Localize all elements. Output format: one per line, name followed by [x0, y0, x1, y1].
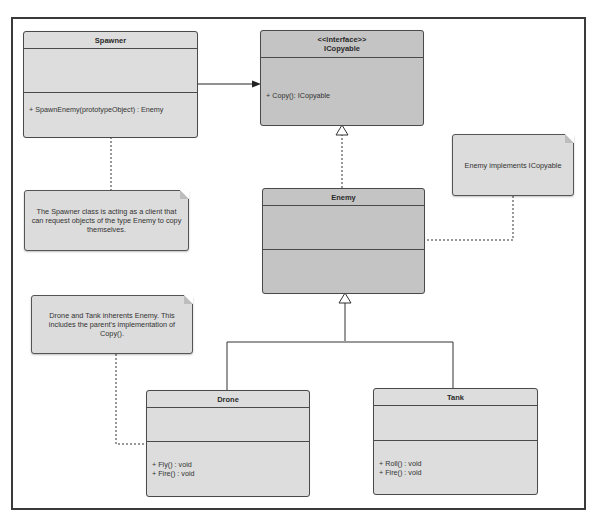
note-text: Enemy implements ICopyable	[465, 161, 562, 170]
class-header: Enemy	[263, 189, 424, 206]
note-fold-corner	[184, 295, 193, 304]
note-fold-corner	[180, 190, 189, 199]
note-spawner-client[interactable]: The Spawner class is acting as a client …	[24, 190, 189, 251]
operations-compartment: + Fly() : void + Fire() : void	[147, 442, 309, 496]
note-text: Drone and Tank inherents Enemy. This inc…	[38, 311, 186, 338]
class-header: Drone	[147, 391, 309, 408]
operation: + Fire() : void	[379, 468, 537, 477]
class-spawner[interactable]: Spawner + SpawnEnemy(prototypeObject) : …	[23, 31, 198, 138]
class-tank[interactable]: Tank + Roll() : void + Fire() : void	[373, 388, 538, 495]
attributes-compartment	[374, 406, 537, 441]
class-header: Tank	[374, 389, 537, 406]
class-name: Enemy	[331, 193, 356, 202]
note-text: The Spawner class is acting as a client …	[31, 207, 182, 234]
operation: + Copy(): ICopyable	[266, 91, 423, 100]
operations-compartment: + SpawnEnemy(prototypeObject) : Enemy	[24, 93, 197, 137]
class-drone[interactable]: Drone + Fly() : void + Fire() : void	[146, 390, 310, 497]
class-name: ICopyable	[324, 44, 360, 53]
operations-compartment: + Copy(): ICopyable	[261, 58, 423, 125]
operation: + Fire() : void	[152, 469, 309, 478]
attributes-compartment	[24, 49, 197, 93]
operations-compartment: + Roll() : void + Fire() : void	[374, 441, 537, 494]
stereotype: <<interface>>	[318, 35, 367, 44]
note-enemy-implements[interactable]: Enemy implements ICopyable	[452, 134, 574, 196]
class-name: Tank	[447, 393, 464, 402]
note-inheritance[interactable]: Drone and Tank inherents Enemy. This inc…	[31, 295, 193, 354]
operation: + SpawnEnemy(prototypeObject) : Enemy	[29, 105, 197, 114]
class-header: <<interface>> ICopyable	[261, 31, 423, 58]
attributes-compartment	[263, 206, 424, 250]
class-enemy[interactable]: Enemy	[262, 188, 425, 294]
operation: + Fly() : void	[152, 460, 309, 469]
operation: + Roll() : void	[379, 459, 537, 468]
class-header: Spawner	[24, 32, 197, 49]
class-name: Drone	[217, 395, 239, 404]
interface-icopyable[interactable]: <<interface>> ICopyable + Copy(): ICopya…	[260, 30, 424, 126]
attributes-compartment	[147, 408, 309, 442]
class-name: Spawner	[95, 36, 126, 45]
note-fold-corner	[565, 134, 574, 143]
operations-compartment	[263, 250, 424, 293]
